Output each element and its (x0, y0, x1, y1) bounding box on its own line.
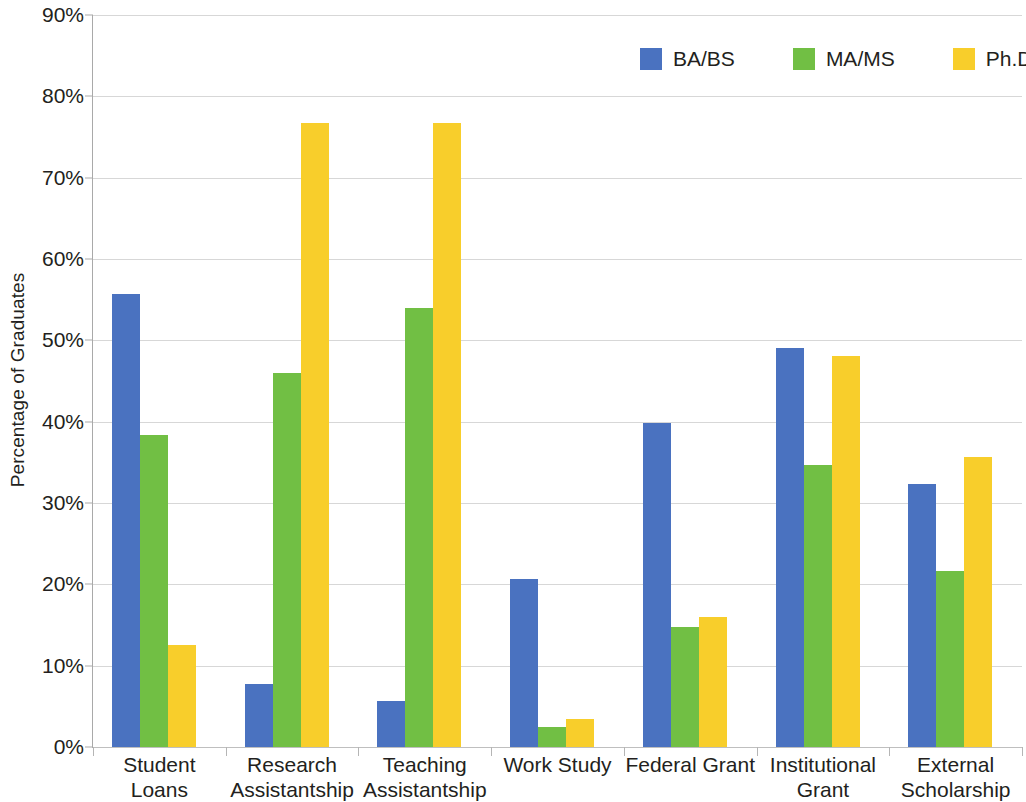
bar (405, 308, 433, 747)
legend-swatch-icon (793, 48, 815, 70)
y-axis-tick-label: 70% (0, 166, 84, 190)
x-axis-tick-mark (1022, 747, 1023, 756)
bar-group (358, 15, 491, 747)
y-axis-tick-label: 60% (0, 247, 84, 271)
bar-group (889, 15, 1022, 747)
bar (273, 373, 301, 747)
bar (566, 719, 594, 747)
x-axis-tick-labels: Student LoansResearch AssistantshipTeach… (93, 752, 1022, 802)
bar-group (757, 15, 890, 747)
y-axis-tick-label: 40% (0, 410, 84, 434)
bar-chart: Percentage of Graduates 90%80%70%60%50%4… (0, 0, 1026, 802)
y-axis-tick-label: 20% (0, 572, 84, 596)
bar (776, 348, 804, 747)
y-axis-tick-label: 0% (0, 735, 84, 759)
bar (804, 465, 832, 747)
legend-label: Ph.D. (986, 47, 1026, 71)
y-axis-tick-label: 50% (0, 328, 84, 352)
y-axis-tick-label: 10% (0, 654, 84, 678)
y-axis-tick-label: 90% (0, 3, 84, 27)
bar (377, 701, 405, 747)
bar (964, 457, 992, 747)
y-axis-tick-label: 30% (0, 491, 84, 515)
legend-item: BA/BS (640, 47, 735, 71)
bar (112, 294, 140, 747)
plot-area (93, 15, 1022, 747)
legend-item: Ph.D. (953, 47, 1026, 71)
bar (140, 435, 168, 747)
bar (699, 617, 727, 747)
bar (936, 571, 964, 747)
gridline (93, 747, 1022, 748)
bar (301, 123, 329, 747)
bar-group (93, 15, 226, 747)
bar (832, 356, 860, 747)
bar (510, 579, 538, 747)
bar (538, 727, 566, 747)
bar (643, 423, 671, 747)
y-axis-tick-labels: 90%80%70%60%50%40%30%20%10%0% (0, 0, 84, 802)
x-axis-tick-label: Federal Grant (624, 752, 757, 777)
legend-item: MA/MS (793, 47, 895, 71)
x-axis-tick-label: Teaching Assistantship (358, 752, 491, 802)
bar (671, 627, 699, 747)
y-axis-tick-label: 80% (0, 84, 84, 108)
legend-swatch-icon (953, 48, 975, 70)
legend-label: MA/MS (826, 47, 895, 71)
bar (168, 645, 196, 747)
bar (433, 123, 461, 747)
bar (908, 484, 936, 747)
bar (245, 684, 273, 747)
bar-group (226, 15, 359, 747)
x-axis-tick-label: Research Assistantship (226, 752, 359, 802)
bar-group (491, 15, 624, 747)
x-axis-tick-label: Student Loans (93, 752, 226, 802)
legend-swatch-icon (640, 48, 662, 70)
x-axis-tick-label: External Scholarship (889, 752, 1022, 802)
x-axis-tick-label: Work Study (491, 752, 624, 777)
legend: BA/BSMA/MSPh.D. (640, 44, 1026, 74)
legend-label: BA/BS (673, 47, 735, 71)
bar-group (624, 15, 757, 747)
x-axis-tick-label: Institutional Grant (757, 752, 890, 802)
